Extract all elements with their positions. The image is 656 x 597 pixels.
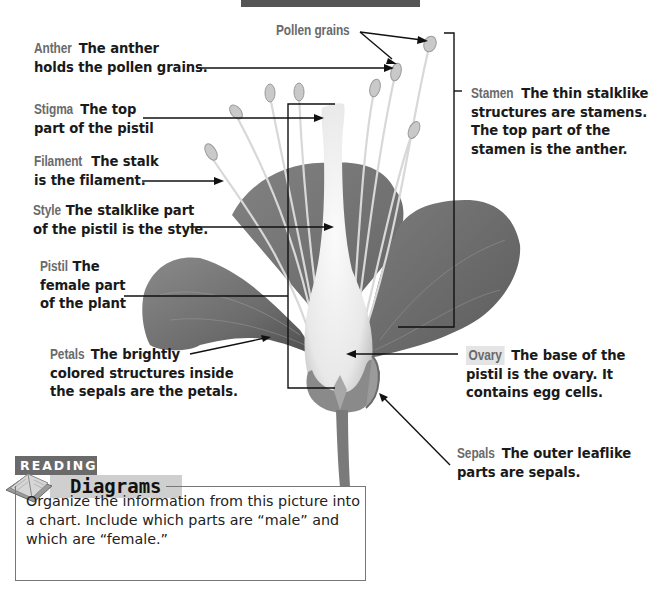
term-pistil: Pistil <box>40 257 68 276</box>
term-ovary: Ovary <box>466 346 504 365</box>
label-stamen: Stamen The thin stalklike structures are… <box>471 84 648 159</box>
term-anther: Anther <box>34 39 72 58</box>
label-pistil: Pistil The female part of the plant <box>40 257 126 314</box>
label-petals: Petals The brightly colored structures i… <box>50 345 238 402</box>
label-anther: Anther The anther holds the pollen grain… <box>34 39 208 77</box>
label-filament: Filament The stalk is the filament. <box>34 152 159 190</box>
label-pollen-grains: Pollen grains <box>276 21 360 41</box>
term-filament: Filament <box>34 152 82 171</box>
term-sepals: Sepals <box>457 444 495 463</box>
term-stamen: Stamen <box>471 84 513 103</box>
label-ovary: Ovary The base of the pistil is the ovar… <box>466 346 625 403</box>
label-stigma: Stigma The top part of the pistil <box>34 100 154 138</box>
label-sepals: Sepals The outer leaflike parts are sepa… <box>457 444 631 482</box>
term-style: Style <box>33 201 61 220</box>
term-petals: Petals <box>50 345 85 364</box>
term-pollen-grains: Pollen grains <box>276 21 350 40</box>
term-stigma: Stigma <box>34 100 73 119</box>
reading-prompt: Organize the information from this pictu… <box>26 492 361 549</box>
label-style: Style The stalklike part of the pistil i… <box>33 201 208 239</box>
stem <box>336 410 350 487</box>
